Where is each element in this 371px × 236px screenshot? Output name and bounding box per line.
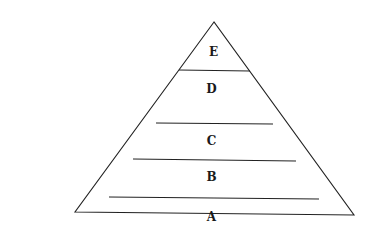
divider-e-d: [179, 70, 250, 71]
level-label-d: D: [206, 82, 217, 96]
level-label-c: C: [207, 134, 218, 148]
pyramid-diagram: E D C B A: [0, 0, 371, 236]
divider-c-b: [133, 159, 296, 161]
level-label-e: E: [209, 45, 219, 59]
divider-b-a: [109, 197, 319, 199]
divider-d-c: [156, 123, 273, 124]
level-label-b: B: [206, 170, 217, 184]
level-label-a: A: [206, 210, 217, 224]
